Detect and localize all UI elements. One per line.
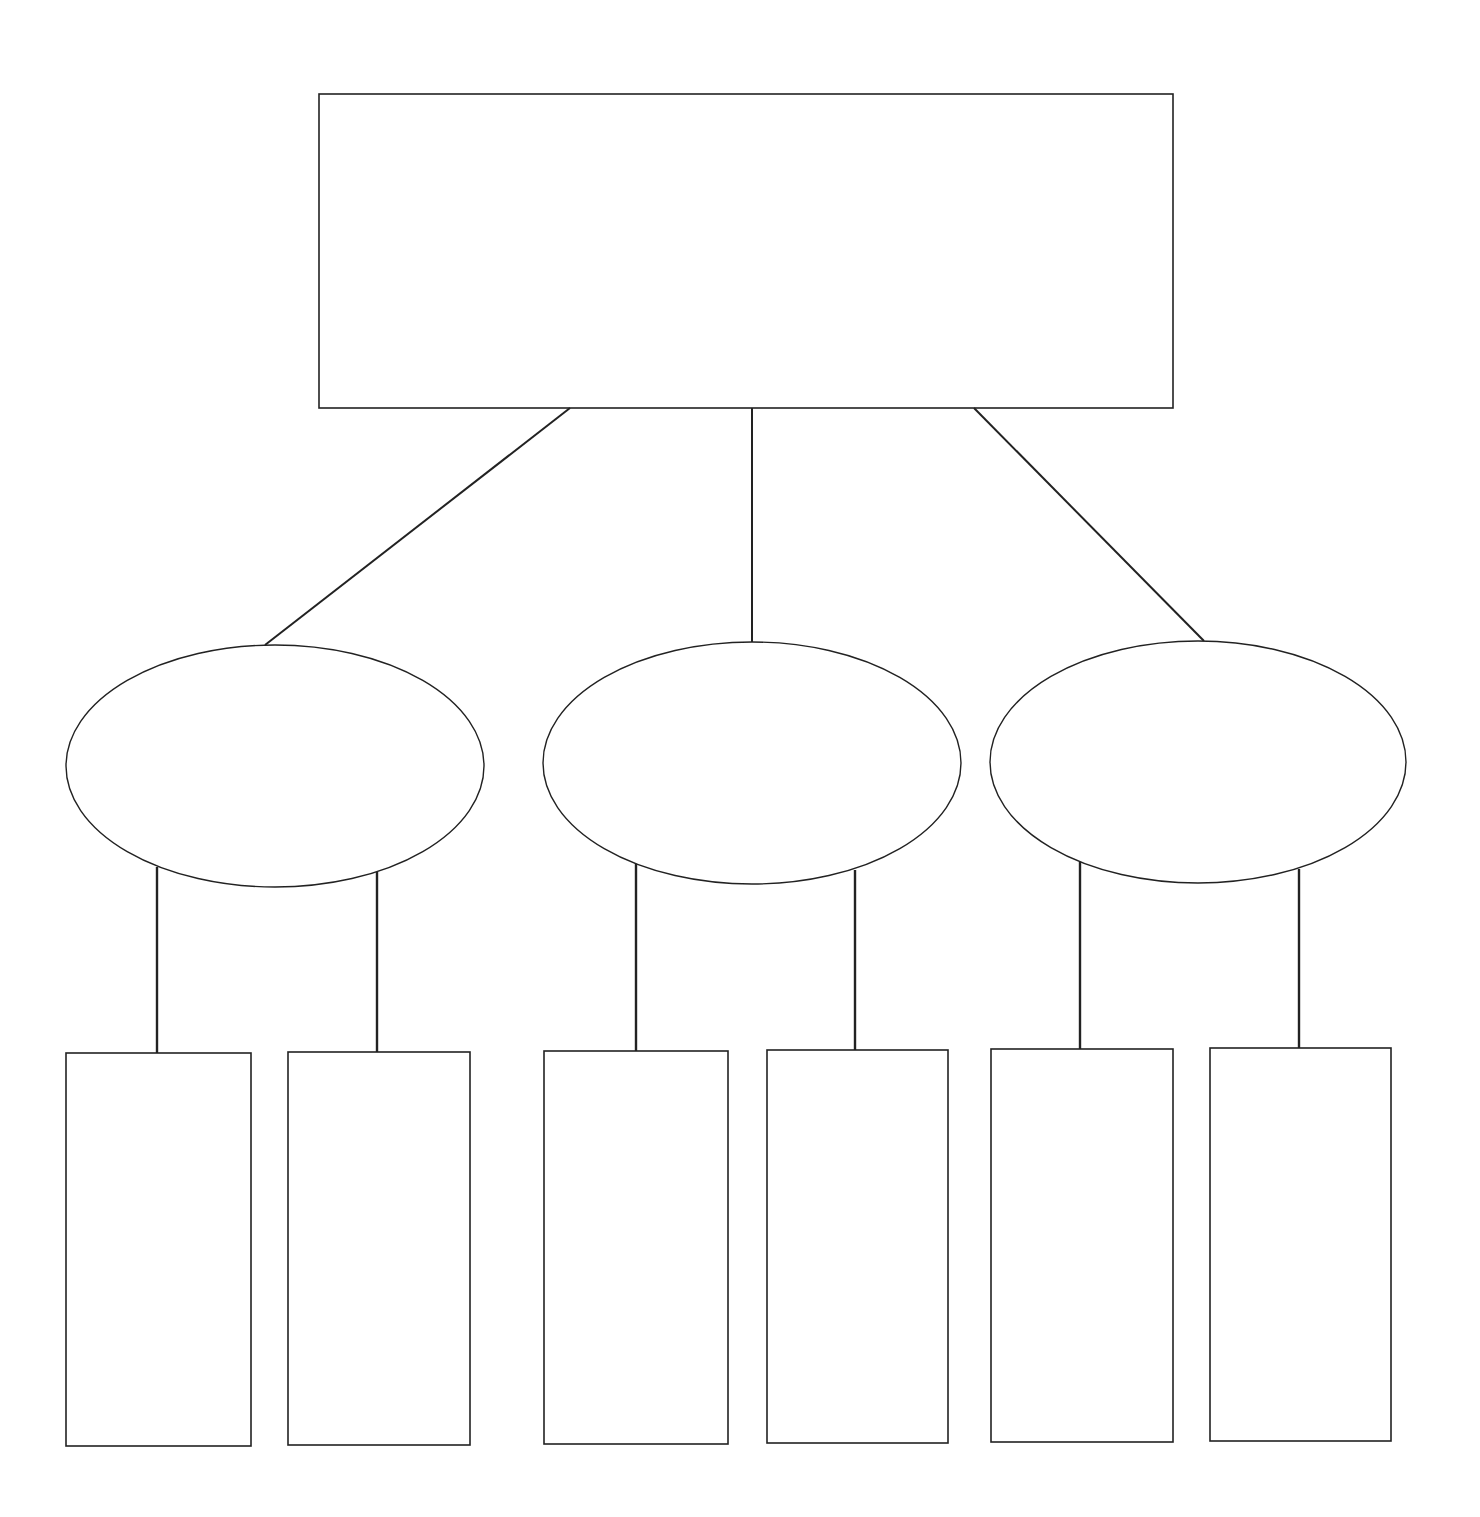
leaf-node-1-1[interactable] [66,1053,251,1446]
root-node[interactable] [319,94,1173,408]
leaf-node-2-1[interactable] [544,1051,728,1444]
branch-ellipse-3[interactable] [990,641,1406,883]
leaf-node-3-1[interactable] [991,1049,1173,1442]
leaf-box-1-2[interactable] [288,1052,470,1445]
leaf-node-1-2[interactable] [288,1052,470,1445]
branch-node-1[interactable] [66,645,484,887]
branch-node-2[interactable] [543,642,961,884]
leaf-node-3-2[interactable] [1210,1048,1391,1441]
branch-node-3[interactable] [990,641,1406,883]
leaf-box-2-2[interactable] [767,1050,948,1443]
leaf-node-2-2[interactable] [767,1050,948,1443]
leaf-box-1-1[interactable] [66,1053,251,1446]
hierarchy-diagram [0,0,1480,1517]
leaf-box-3-1[interactable] [991,1049,1173,1442]
leaf-box-2-1[interactable] [544,1051,728,1444]
root-box[interactable] [319,94,1173,408]
branch-ellipse-1[interactable] [66,645,484,887]
leaf-box-3-2[interactable] [1210,1048,1391,1441]
branch-ellipse-2[interactable] [543,642,961,884]
